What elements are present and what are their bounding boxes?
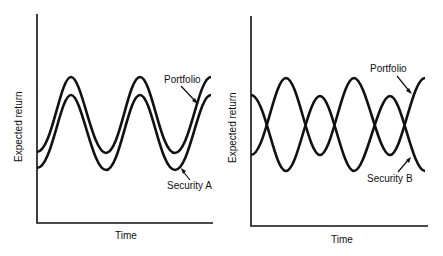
right-label-portfolio: Portfolio (370, 63, 407, 74)
right-ylabel: Expected return (227, 92, 238, 163)
left-label-portfolio: Portfolio (164, 74, 201, 85)
left-chart: Portfolio Security A Time Expected retur… (13, 14, 213, 241)
left-security-a-line (37, 95, 211, 170)
right-label-security-b: Security B (367, 173, 413, 184)
right-chart: Portfolio Security B Time Expected retur… (227, 16, 428, 245)
left-ylabel: Expected return (13, 91, 24, 162)
left-portfolio-line (37, 77, 211, 153)
left-label-security-a: Security A (167, 180, 212, 191)
chart-figure: Portfolio Security A Time Expected retur… (0, 0, 443, 256)
arrowhead (181, 168, 186, 174)
left-axes (37, 14, 213, 223)
right-axes (251, 16, 428, 226)
right-security-b-line (251, 95, 425, 171)
left-xlabel: Time (115, 230, 137, 241)
right-xlabel: Time (331, 234, 353, 245)
right-portfolio-line (251, 78, 425, 155)
